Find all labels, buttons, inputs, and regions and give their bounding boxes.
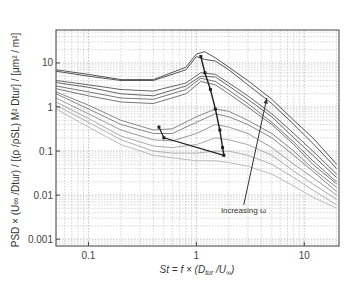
svg-text:increasing ω: increasing ω [221,206,266,215]
x-axis-label: St = f × (Dtur /U∞) [160,264,235,276]
y-axis-label: PSD × (U∞ /Dtur) / [(ρ /ρSL) M² Dtur] / … [10,33,21,248]
svg-text:0.001: 0.001 [28,234,53,245]
x-axis-ticks: 0.1110 [82,242,311,261]
svg-text:1: 1 [194,250,200,261]
psd-chart: 0.1110 1010.10.010.001 increasing ω St =… [0,0,357,286]
svg-text:0.1: 0.1 [82,250,96,261]
svg-text:0.1: 0.1 [39,146,53,157]
grid-lines [56,30,339,246]
svg-text:10: 10 [42,57,54,68]
svg-text:10: 10 [299,250,311,261]
svg-text:0.01: 0.01 [34,190,54,201]
svg-text:1: 1 [47,102,53,113]
y-axis-ticks: 1010.10.010.001 [28,57,60,244]
